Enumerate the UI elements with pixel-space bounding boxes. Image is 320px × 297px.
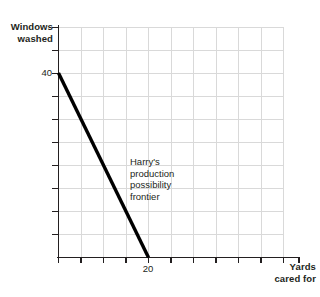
ppf-chart: Windows washed Yards cared for 40 20 Har… <box>0 0 320 297</box>
x-axis-label: Yards cared for <box>236 261 316 284</box>
ppf-annotation-label: Harry's production possibility frontier <box>130 156 174 202</box>
x-axis-tick-label-20: 20 <box>128 263 168 274</box>
y-axis-tick-label-40: 40 <box>14 67 52 78</box>
plot-canvas <box>0 0 320 297</box>
y-axis-ticks <box>52 28 58 235</box>
y-axis-label: Windows washed <box>0 21 53 44</box>
